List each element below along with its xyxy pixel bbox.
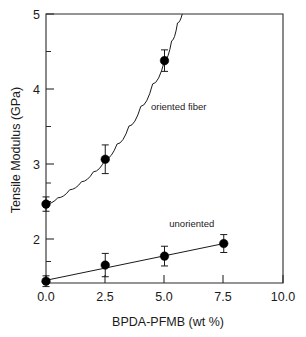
data-point <box>160 252 169 261</box>
y-tick-label-2: 2 <box>33 233 40 247</box>
series-layer <box>42 14 228 287</box>
series-annotation-unoriented: unoriented <box>169 218 214 229</box>
y-tick-label-4: 4 <box>33 83 40 97</box>
data-point <box>42 200 51 209</box>
data-point <box>101 261 110 270</box>
x-tick-labels: 0.0 2.5 5.0 7.5 10.0 <box>37 290 295 304</box>
x-tick-label-1: 2.5 <box>96 290 113 304</box>
y-axis-minor-ticks <box>46 52 51 262</box>
y-tick-label-5: 5 <box>33 8 40 22</box>
y-tick-labels: 5 4 3 2 <box>33 8 40 247</box>
x-axis-title: BPDA-PFMB (wt %) <box>112 315 224 329</box>
series-oriented-fiber <box>42 14 183 211</box>
series-unoriented <box>42 235 228 287</box>
data-point <box>101 155 110 164</box>
data-point <box>219 239 228 248</box>
annotation-layer: oriented fiberunoriented <box>151 101 214 229</box>
x-axis-major-ticks <box>46 275 283 283</box>
data-point <box>160 56 169 65</box>
series-annotation-oriented-fiber: oriented fiber <box>151 101 206 112</box>
x-tick-label-4: 10.0 <box>271 290 295 304</box>
chart-figure: 5 4 3 2 0.0 2.5 5.0 7.5 10.0 BPDA-PFMB (… <box>0 0 306 337</box>
fit-curve <box>46 244 224 281</box>
y-tick-label-3: 3 <box>33 158 40 172</box>
x-tick-label-2: 5.0 <box>155 290 172 304</box>
x-tick-label-0: 0.0 <box>37 290 54 304</box>
tensile-modulus-plot: 5 4 3 2 0.0 2.5 5.0 7.5 10.0 BPDA-PFMB (… <box>0 0 306 337</box>
data-point <box>42 277 51 286</box>
y-axis-title: Tensile Modulus (GPa) <box>9 87 23 213</box>
x-tick-label-3: 7.5 <box>214 290 231 304</box>
